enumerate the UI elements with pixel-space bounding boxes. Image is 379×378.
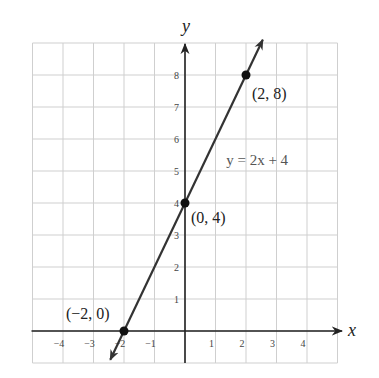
x-tick-label: 2 xyxy=(240,338,245,349)
x-tick-label: −1 xyxy=(145,338,156,349)
y-tick-label: 6 xyxy=(174,134,179,145)
point-label: (−2, 0) xyxy=(66,305,110,323)
data-point xyxy=(242,71,251,80)
y-tick-label: 1 xyxy=(174,294,179,305)
x-tick-label: 4 xyxy=(301,338,306,349)
data-point xyxy=(120,327,129,336)
y-tick-label: 4 xyxy=(174,198,179,209)
y-tick-label: 3 xyxy=(174,230,179,241)
x-tick-label: 1 xyxy=(209,338,214,349)
x-tick-label: 3 xyxy=(270,338,275,349)
y-tick-label: 8 xyxy=(174,70,179,81)
x-tick-label: −3 xyxy=(84,338,95,349)
x-tick-label: −4 xyxy=(54,338,65,349)
point-label: (2, 8) xyxy=(252,85,287,103)
y-tick-label: 7 xyxy=(174,102,179,113)
x-axis-label: x xyxy=(347,320,356,340)
y-tick-label: 2 xyxy=(174,262,179,273)
y-axis-label: y xyxy=(180,16,190,36)
point-label: (0, 4) xyxy=(191,209,226,227)
y-tick-label: 5 xyxy=(174,166,179,177)
data-point xyxy=(181,199,190,208)
coordinate-plane: xy −4−3−2−1123412345678 (−2, 0)(0, 4)(2,… xyxy=(0,0,379,378)
equation-label: y = 2x + 4 xyxy=(226,152,288,168)
